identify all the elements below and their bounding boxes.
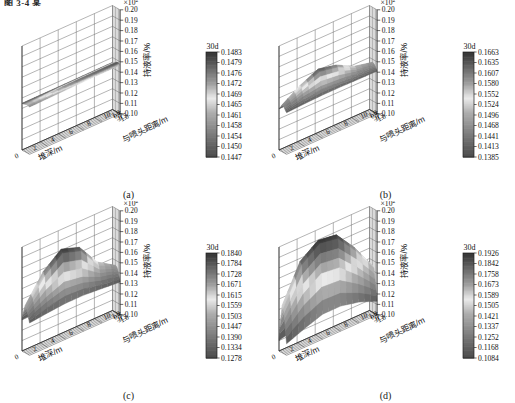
panel-c-caption: (c) [0,390,257,401]
svg-text:0.1084: 0.1084 [478,354,499,363]
svg-text:0.11: 0.11 [382,99,395,108]
svg-text:0.11: 0.11 [125,300,138,309]
svg-text:0.1334: 0.1334 [221,343,242,352]
svg-text:0.18: 0.18 [382,227,395,236]
svg-text:0.1728: 0.1728 [221,270,242,279]
svg-text:0.14: 0.14 [125,269,138,278]
svg-text:0.1559: 0.1559 [221,301,242,310]
panel-d-caption: (d) [257,390,514,401]
svg-text:0.18: 0.18 [382,26,395,35]
svg-text:0.1472: 0.1472 [221,79,242,88]
svg-text:持液率/%: 持液率/% [142,243,152,277]
svg-text:0: 0 [270,353,277,362]
colorbar-title: 30d [464,243,476,252]
svg-text:0: 0 [13,353,20,362]
svg-text:0.14: 0.14 [382,269,395,278]
svg-text:0.19: 0.19 [125,16,138,25]
z-axis-ticks: 0.200.190.180.170.160.150.140.130.120.11… [377,0,409,118]
svg-text:0.14: 0.14 [382,68,395,77]
svg-text:0.1278: 0.1278 [221,354,242,363]
svg-text:0.11: 0.11 [125,99,138,108]
svg-text:0.12: 0.12 [382,89,395,98]
svg-text:0.19: 0.19 [382,16,395,25]
svg-text:0.19: 0.19 [125,217,138,226]
panel-a-plot: 0.200.190.180.170.160.150.140.130.120.11… [0,0,257,201]
svg-text:0.1503: 0.1503 [221,312,242,321]
svg-text:0.17: 0.17 [382,238,395,247]
svg-text:0.17: 0.17 [125,238,138,247]
colorbar: 30d0.16630.16350.16070.15800.15520.15240… [463,42,499,162]
svg-text:0.12: 0.12 [125,89,138,98]
colorbar-title: 30d [207,42,219,51]
svg-text:0.1635: 0.1635 [478,58,499,67]
svg-text:0.15: 0.15 [382,258,395,267]
svg-text:持液率/%: 持液率/% [399,42,409,76]
panel-a-caption: (a) [0,189,257,200]
svg-text:0: 0 [270,152,277,161]
svg-text:0.1842: 0.1842 [478,259,499,268]
svg-text:0.15: 0.15 [382,57,395,66]
svg-text:0.17: 0.17 [125,37,138,46]
surface-mesh [22,247,120,323]
svg-text:0.1454: 0.1454 [221,132,242,141]
svg-text:0.11: 0.11 [382,300,395,309]
svg-text:0.13: 0.13 [382,279,395,288]
panel-c: 0.200.190.180.170.160.150.140.130.120.11… [0,201,257,402]
svg-text:0.1458: 0.1458 [221,121,242,130]
svg-text:0.18: 0.18 [125,26,138,35]
svg-text:0.1615: 0.1615 [221,291,242,300]
svg-text:0.1450: 0.1450 [221,142,242,151]
panel-b: 0.200.190.180.170.160.150.140.130.120.11… [257,0,514,201]
svg-text:0.16: 0.16 [125,248,138,257]
svg-text:0.1465: 0.1465 [221,100,242,109]
svg-text:0.12: 0.12 [382,290,395,299]
surface-mesh [22,62,120,107]
svg-text:0.1441: 0.1441 [478,132,499,141]
y-axis-ticks: 1.00.50-0.5-1.0与喷头距离/m [110,309,169,345]
svg-text:0.1663: 0.1663 [478,48,499,57]
figure-3d-surface-grid: 图 3-4 某 0.200.190.180.170.160.150.140.13… [0,0,515,403]
z-axis-ticks: 0.200.190.180.170.160.150.140.130.120.11… [120,0,152,118]
svg-text:0.14: 0.14 [125,68,138,77]
svg-text:0.1496: 0.1496 [478,111,499,120]
colorbar-title: 30d [464,42,476,51]
svg-text:0.1252: 0.1252 [478,333,499,342]
y-axis-ticks: 1.00.50-0.5-1.0与喷头距离/m [367,108,426,144]
svg-text:堆深/m: 堆深/m [37,344,64,364]
panel-d-plot: 0.200.190.180.170.160.150.140.130.120.11… [257,201,514,402]
svg-text:0.1476: 0.1476 [221,69,242,78]
svg-text:0.1589: 0.1589 [478,291,499,300]
svg-text:0.15: 0.15 [125,258,138,267]
svg-text:0.1479: 0.1479 [221,58,242,67]
svg-text:0.1461: 0.1461 [221,111,242,120]
svg-text:0.1385: 0.1385 [478,153,499,162]
colorbar: 30d0.18400.17840.17280.16710.16150.15590… [206,243,242,363]
colorbar: 30d0.19260.18420.17580.16730.15890.15050… [463,243,499,363]
svg-text:0.18: 0.18 [125,227,138,236]
svg-text:0.1468: 0.1468 [478,121,499,130]
svg-text:0.13: 0.13 [382,78,395,87]
svg-text:0.13: 0.13 [125,279,138,288]
svg-text:0.16: 0.16 [125,47,138,56]
svg-text:0.1524: 0.1524 [478,100,499,109]
svg-text:堆深/m: 堆深/m [294,344,321,364]
svg-text:0.1552: 0.1552 [478,90,499,99]
svg-text:0.1505: 0.1505 [478,301,499,310]
panel-a: 0.200.190.180.170.160.150.140.130.120.11… [0,0,257,201]
svg-text:0.1671: 0.1671 [221,280,242,289]
svg-text:0.1469: 0.1469 [221,90,242,99]
svg-text:0.19: 0.19 [382,217,395,226]
panel-b-plot: 0.200.190.180.170.160.150.140.130.120.11… [257,0,514,201]
z-axis-ticks: 0.200.190.180.170.160.150.140.130.120.11… [120,201,152,319]
svg-text:0.15: 0.15 [125,57,138,66]
svg-text:0.1337: 0.1337 [478,322,499,331]
svg-text:0.12: 0.12 [125,290,138,299]
svg-text:0.16: 0.16 [382,248,395,257]
y-axis-ticks: 1.00.50-0.5-1.0与喷头距离/m [367,309,426,345]
svg-text:堆深/m: 堆深/m [294,143,321,163]
y-axis-ticks: 1.00.50-0.5-1.0与喷头距离/m [110,108,169,144]
svg-text:0.1447: 0.1447 [221,322,242,331]
svg-text:0.17: 0.17 [382,37,395,46]
svg-text:0.1413: 0.1413 [478,142,499,151]
svg-text:0.1607: 0.1607 [478,69,499,78]
